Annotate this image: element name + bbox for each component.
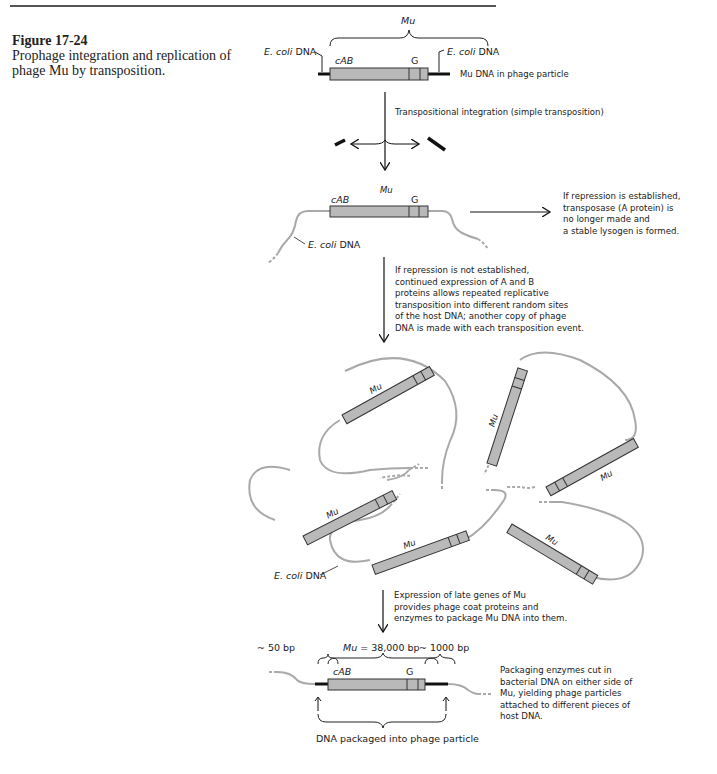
panel-4-packaged-dna: ~ 50 bp Mu = 38,000 bp ~ 1000 bp cAB G D… <box>257 642 492 744</box>
step-3-label: Expression of late genes of Mu provides … <box>394 590 567 625</box>
panel-2-integrated-prophage: Mu cAB G E. coli DNA <box>268 185 550 263</box>
mu-copy-1: Mu <box>336 356 434 424</box>
mu-label-2: Mu <box>380 185 393 195</box>
mu-copy-5: Mu <box>368 520 469 575</box>
svg-text:Mu: Mu <box>598 468 614 483</box>
packaged-dna-label: DNA packaged into phage particle <box>316 733 479 744</box>
g-gene-label-4: G <box>406 666 413 677</box>
cab-gene-label-4: cAB <box>333 666 351 677</box>
right-ecoli-label: E. coli DNA <box>447 46 500 57</box>
mu-copy-3: Mu <box>546 439 645 508</box>
g-gene-label-2: G <box>411 194 418 205</box>
cab-gene-label: cAB <box>335 55 353 66</box>
packaging-note: Packaging enzymes cut in bacterial DNA o… <box>500 665 632 723</box>
step-2-label: If repression is not established, contin… <box>395 265 584 334</box>
right-flank-size: ~ 1000 bp <box>419 642 469 653</box>
repression-established-note: If repression is established, transposas… <box>563 191 680 237</box>
phage-particle-label: Mu DNA in phage particle <box>460 69 569 79</box>
step-1-integration: Transpositional integration (simple tran… <box>335 92 604 170</box>
mu-brace-label: Mu <box>401 15 415 26</box>
panel-1-phage-dna: Mu E. coli DNA E. coli DNA cAB G Mu DNA … <box>264 15 569 80</box>
ecoli-dna-label-2: E. coli DNA <box>308 239 361 250</box>
panel-3-replicative-transposition: Mu Mu Mu Mu Mu Mu E. coli DNA <box>249 353 645 585</box>
svg-text:Mu: Mu <box>487 413 500 428</box>
mu-copy-2: Mu <box>476 364 528 466</box>
mu-size-label: Mu = 38,000 bp <box>343 642 420 653</box>
g-gene-label: G <box>411 55 418 66</box>
cab-gene-label-2: cAB <box>331 194 349 205</box>
step-1-label: Transpositional integration (simple tran… <box>394 107 604 117</box>
svg-text:Mu: Mu <box>402 537 417 551</box>
mu-copy-6: Mu <box>507 514 604 584</box>
left-ecoli-label: E. coli DNA <box>264 46 317 57</box>
ecoli-dna-label-3: E. coli DNA <box>274 570 327 581</box>
mu-transposition-diagram: Mu E. coli DNA E. coli DNA cAB G Mu DNA … <box>0 0 717 774</box>
left-flank-size: ~ 50 bp <box>257 642 295 653</box>
